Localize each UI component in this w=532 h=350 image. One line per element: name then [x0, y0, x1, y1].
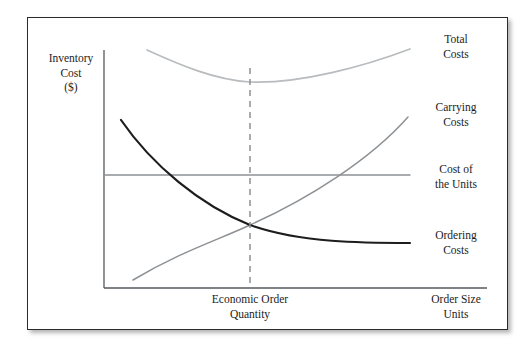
x-axis-label: Order Size Units — [416, 292, 496, 321]
y-axis-label-line-2: Cost — [37, 66, 105, 81]
series-label-cost-of-units: Cost of the Units — [419, 162, 493, 191]
series-label-ordering-costs-line-2: Costs — [419, 243, 493, 258]
series-label-ordering-costs: Ordering Costs — [419, 228, 493, 257]
series-label-total-costs-line-2: Costs — [423, 47, 489, 62]
y-axis-label-line-1: Inventory — [37, 51, 105, 66]
x-axis-label-line-1: Order Size — [416, 292, 496, 307]
series-label-total-costs-line-1: Total — [423, 32, 489, 47]
eoq-annotation-line-2: Quantity — [196, 307, 304, 322]
series-label-carrying-costs: Carrying Costs — [419, 100, 493, 129]
series-label-carrying-costs-line-2: Costs — [419, 115, 493, 130]
series-label-cost-of-units-line-2: the Units — [419, 177, 493, 192]
eoq-annotation-label: Economic Order Quantity — [196, 292, 304, 321]
series-label-total-costs: Total Costs — [423, 32, 489, 61]
series-label-ordering-costs-line-1: Ordering — [419, 228, 493, 243]
y-axis-label: Inventory Cost ($) — [37, 51, 105, 95]
eoq-annotation-line-1: Economic Order — [196, 292, 304, 307]
series-label-carrying-costs-line-1: Carrying — [419, 100, 493, 115]
x-axis-label-line-2: Units — [416, 307, 496, 322]
y-axis-label-line-3: ($) — [37, 80, 105, 95]
series-label-cost-of-units-line-1: Cost of — [419, 162, 493, 177]
